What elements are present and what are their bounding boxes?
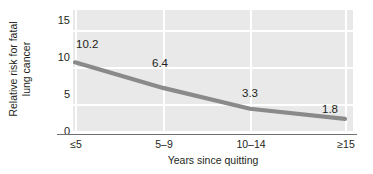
series-line-relative-risk [73,10,353,133]
data-label-1: 6.4 [152,57,168,69]
data-label-0: 10.2 [76,38,98,50]
x-tick-label-2: 10–14 [236,138,265,150]
y-tick-label-5: 5 [48,89,70,100]
x-tick-label-1: 5–9 [155,138,173,150]
y-axis-tick-labels: 15 10 5 0 [42,0,70,174]
y-axis-title-line1: Relative risk for fatal [7,21,19,116]
x-axis-line [57,134,357,135]
y-tick-label-10: 10 [48,52,70,63]
y-tick-label-15: 15 [48,15,70,26]
chart-figure: Relative risk for fatal lung cancer 15 1… [0,0,373,174]
x-axis-title: Years since quitting [73,154,353,166]
y-axis-title: Relative risk for fatal lung cancer [0,0,40,138]
data-label-3: 1.8 [322,103,338,115]
x-tick-label-0: ≤5 [70,138,82,150]
y-tick-label-0: 0 [48,126,70,137]
x-tick-label-3: ≥15 [337,138,354,150]
data-label-2: 3.3 [242,87,258,99]
plot-area [73,10,353,133]
y-axis-title-line2: lung cancer [20,21,33,116]
